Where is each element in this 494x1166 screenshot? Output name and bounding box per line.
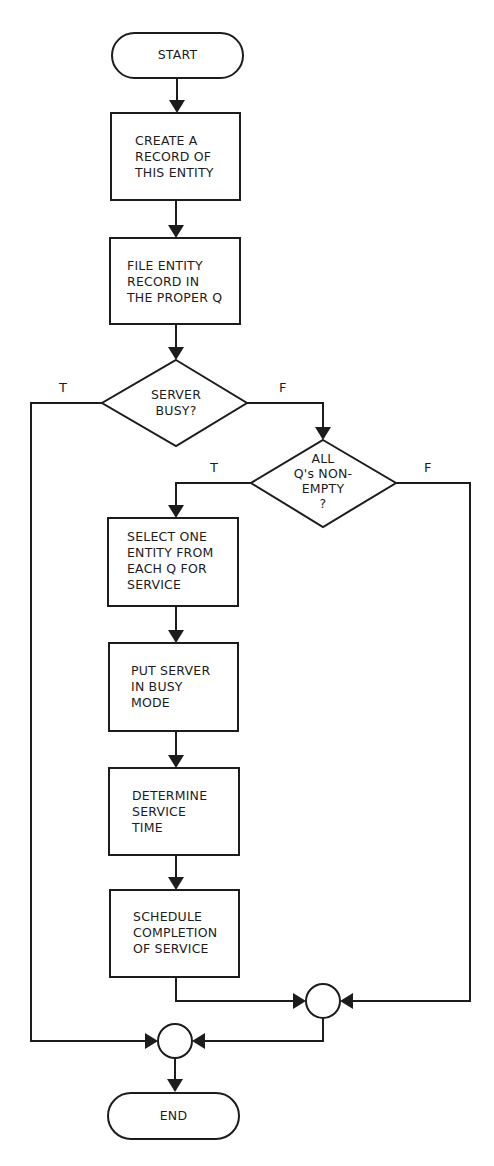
branch-label-server-busy-false: F <box>279 380 286 395</box>
arrowhead-icon <box>169 100 185 113</box>
arrowhead-icon <box>293 993 306 1009</box>
edge-server-busy-false <box>247 403 323 430</box>
arrowhead-icon <box>167 1079 183 1092</box>
arrowhead-icon <box>315 427 331 440</box>
all-qs-nonempty-label: ALL Q's NON- EMPTY ? <box>273 451 373 511</box>
put-server-busy-label: PUT SERVER IN BUSY MODE <box>131 663 210 711</box>
schedule-completion-label: SCHEDULE COMPLETION OF SERVICE <box>133 909 217 957</box>
arrowhead-icon <box>168 225 184 238</box>
create-record-label: CREATE A RECORD OF THIS ENTITY <box>135 133 214 181</box>
connector-right <box>306 984 340 1018</box>
start-label: START <box>112 47 243 63</box>
server-busy-label: SERVER BUSY? <box>126 387 226 419</box>
edge-schedule-to-connector <box>176 977 296 1001</box>
arrowhead-icon <box>168 505 184 518</box>
arrowhead-icon <box>168 347 184 360</box>
branch-label-all-qs-false: F <box>424 460 431 475</box>
arrowhead-icon <box>340 993 353 1009</box>
arrowhead-icon <box>192 1033 205 1049</box>
branch-label-server-busy-true: T <box>59 380 67 395</box>
flowchart-canvas <box>0 0 494 1166</box>
edge-all-qs-true <box>176 483 251 508</box>
determine-time-label: DETERMINE SERVICE TIME <box>132 788 207 836</box>
file-record-label: FILE ENTITY RECORD IN THE PROPER Q <box>127 258 222 306</box>
arrowhead-icon <box>145 1033 158 1049</box>
edge-all-qs-false <box>350 483 470 1001</box>
arrowhead-icon <box>168 630 184 643</box>
connector-left <box>158 1024 192 1058</box>
edge-connector-right-to-left <box>202 1018 323 1041</box>
select-entity-label: SELECT ONE ENTITY FROM EACH Q FOR SERVIC… <box>127 529 214 593</box>
branch-label-all-qs-true: T <box>210 460 218 475</box>
end-label: END <box>108 1108 239 1124</box>
arrowhead-icon <box>168 877 184 890</box>
arrowhead-icon <box>168 755 184 768</box>
